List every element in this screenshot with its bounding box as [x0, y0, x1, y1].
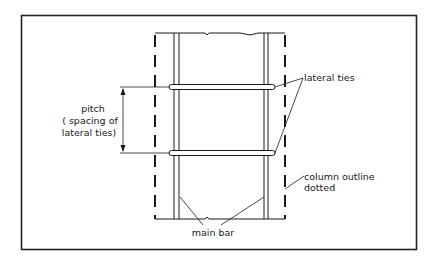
- lateral-ties-leader-upper: [275, 78, 303, 87]
- column-outline-label-line2: dotted: [304, 182, 335, 193]
- pitch-label-line1: pitch: [81, 103, 105, 114]
- lateral-ties-leader-lower: [275, 78, 303, 153]
- column-tie-diagram: pitch ( spacing of lateral ties) lateral…: [0, 0, 432, 260]
- pitch-arrow-up-icon: [121, 88, 126, 95]
- main-bar-leader-left: [180, 197, 203, 225]
- pitch-label-line2: ( spacing of: [62, 115, 118, 126]
- lateral-ties-label: lateral ties: [304, 72, 355, 83]
- lateral-tie-upper: [169, 85, 275, 90]
- lateral-tie-lower: [169, 151, 275, 156]
- main-bar-leader-right: [221, 197, 264, 225]
- column-outline-leader: [285, 176, 304, 189]
- main-bar-label: main bar: [192, 227, 235, 238]
- pitch-label-line3: lateral ties): [62, 127, 116, 138]
- column-outline-label-line1: column outline: [304, 171, 375, 182]
- pitch-arrow-down-icon: [121, 145, 126, 152]
